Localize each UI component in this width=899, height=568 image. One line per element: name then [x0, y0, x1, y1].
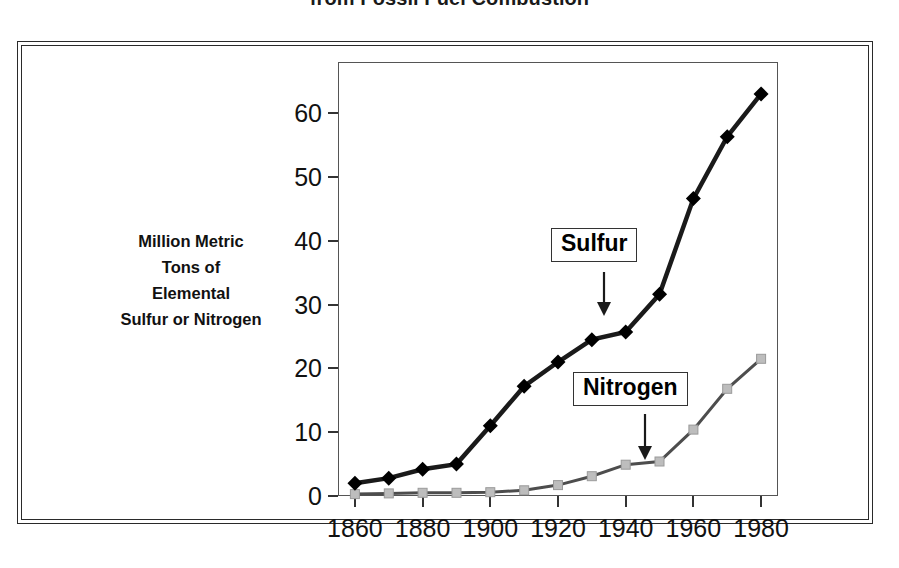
y-tick-mark — [328, 240, 338, 242]
plot-area-frame — [338, 62, 778, 496]
x-tick-mark — [760, 496, 762, 507]
y-tick-mark — [328, 367, 338, 369]
y-tick-mark — [328, 304, 338, 306]
y-tick-label: 50 — [278, 162, 322, 191]
y-axis-title-line-1: Million Metric — [96, 228, 286, 254]
y-tick-mark — [328, 431, 338, 433]
y-tick-label: 0 — [278, 482, 322, 511]
y-tick-label: 30 — [278, 290, 322, 319]
y-tick-mark — [328, 112, 338, 114]
callout-label-sulfur: Sulfur — [551, 228, 637, 262]
x-tick-mark — [422, 496, 424, 507]
y-axis-title: Million Metric Tons of Elemental Sulfur … — [96, 228, 286, 332]
x-tick-label: 1980 — [716, 514, 806, 543]
chart-title: from Fossil Fuel Combustion — [0, 0, 899, 10]
x-tick-mark — [692, 496, 694, 507]
y-axis-title-line-4: Sulfur or Nitrogen — [96, 306, 286, 332]
y-tick-mark — [328, 176, 338, 178]
y-axis-title-line-2: Tons of — [96, 254, 286, 280]
y-axis-title-line-3: Elemental — [96, 280, 286, 306]
x-tick-mark — [557, 496, 559, 507]
y-tick-mark — [328, 495, 338, 497]
y-tick-label: 40 — [278, 226, 322, 255]
y-tick-label: 10 — [278, 418, 322, 447]
y-tick-label: 20 — [278, 354, 322, 383]
x-tick-mark — [354, 496, 356, 507]
y-tick-label: 60 — [278, 99, 322, 128]
x-tick-mark — [625, 496, 627, 507]
callout-label-nitrogen: Nitrogen — [573, 372, 688, 406]
x-tick-mark — [489, 496, 491, 507]
